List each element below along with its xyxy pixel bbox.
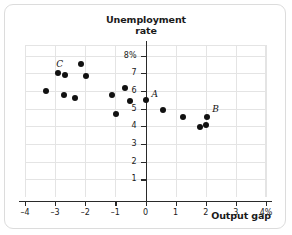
x-axis-tick <box>176 201 177 206</box>
x-axis-label: –1 <box>105 209 125 217</box>
x-axis-tick <box>146 201 147 206</box>
gridline-vertical <box>236 45 237 197</box>
y-axis-label: 8% <box>115 52 137 60</box>
y-axis-tick <box>141 91 146 92</box>
y-axis-line <box>146 41 147 203</box>
chart-title: Unemployment rate <box>5 14 287 36</box>
chart-title-line2: rate <box>5 25 287 36</box>
data-point <box>180 114 186 120</box>
data-point <box>55 70 61 76</box>
y-axis-label: 3 <box>115 140 137 148</box>
y-axis-label: 2 <box>115 158 137 166</box>
plot-frame-right <box>265 45 266 197</box>
data-point <box>160 107 166 113</box>
x-axis-tick <box>25 201 26 206</box>
point-label-a: A <box>152 90 159 99</box>
gridline-vertical <box>115 45 116 197</box>
y-axis-tick <box>141 179 146 180</box>
data-point <box>127 98 133 104</box>
data-point <box>83 73 89 79</box>
x-axis-tick <box>115 201 116 206</box>
chart-card: Unemployment rate 12345678%–4–3–2–101234… <box>4 4 286 229</box>
y-axis-tick <box>141 73 146 74</box>
y-axis-label: 1 <box>115 175 137 183</box>
data-point <box>143 97 149 103</box>
y-axis-label: 7 <box>115 69 137 77</box>
gridline-vertical <box>266 45 267 197</box>
y-axis-tick <box>141 126 146 127</box>
x-axis-tick <box>206 201 207 206</box>
data-point <box>204 114 210 120</box>
x-axis-label: 0 <box>136 209 156 217</box>
x-axis-label: –4 <box>15 209 35 217</box>
x-axis-title: Output gap <box>211 210 271 221</box>
gridline-vertical <box>176 45 177 197</box>
data-point <box>203 122 209 128</box>
point-label-c: C <box>56 60 63 69</box>
y-axis-label: 4 <box>115 122 137 130</box>
x-axis-tick <box>85 201 86 206</box>
data-point <box>43 88 49 94</box>
data-point <box>113 111 119 117</box>
x-axis-tick <box>266 201 267 206</box>
x-axis-tick <box>55 201 56 206</box>
data-point <box>61 92 67 98</box>
x-axis-tick <box>236 201 237 206</box>
point-label-b: B <box>212 105 219 114</box>
chart-title-line1: Unemployment <box>106 14 186 25</box>
data-point <box>62 72 68 78</box>
gridline-vertical <box>85 45 86 197</box>
plot-frame-left <box>25 45 26 197</box>
x-axis-label: –2 <box>75 209 95 217</box>
y-axis-tick <box>141 162 146 163</box>
plot-area: 12345678%–4–3–2–101234%ABC <box>25 45 266 197</box>
x-axis-label: –3 <box>45 209 65 217</box>
y-axis-tick <box>141 109 146 110</box>
data-point <box>197 124 203 130</box>
data-point <box>72 95 78 101</box>
y-axis-tick <box>141 144 146 145</box>
x-axis-label: 1 <box>166 209 186 217</box>
y-axis-tick <box>141 56 146 57</box>
data-point <box>78 61 84 67</box>
